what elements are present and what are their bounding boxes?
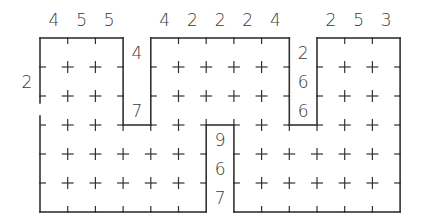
column-clue: 2 (325, 10, 336, 30)
notch-clue: 6 (298, 72, 309, 92)
column-clue: 4 (48, 10, 59, 30)
row-clue: 2 (22, 72, 33, 92)
notch-clue: 7 (215, 188, 226, 208)
notch-clue: 2 (298, 43, 309, 63)
puzzle-board[interactable]: 45542224253247266967 (0, 0, 425, 224)
column-clue: 5 (76, 10, 87, 30)
column-clue: 2 (242, 10, 253, 30)
notch-clue: 6 (215, 159, 226, 179)
column-clue: 4 (270, 10, 281, 30)
column-clue: 5 (353, 10, 364, 30)
column-clue: 2 (215, 10, 226, 30)
column-clue: 5 (104, 10, 115, 30)
notch-clue: 6 (298, 101, 309, 121)
notch-clue: 4 (132, 43, 143, 63)
notch-clue: 7 (132, 101, 143, 121)
column-clue: 4 (159, 10, 170, 30)
column-clue: 2 (187, 10, 198, 30)
notch-clue: 9 (215, 130, 226, 150)
column-clue: 3 (381, 10, 392, 30)
